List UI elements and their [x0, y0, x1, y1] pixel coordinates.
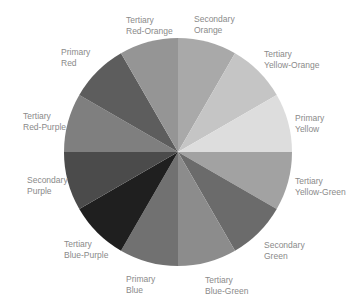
label-line-2: Blue — [126, 285, 155, 296]
label-line-1: Secondary — [194, 14, 235, 25]
label-tertiary-yellow-orange: TertiaryYellow-Orange — [264, 49, 319, 71]
label-tertiary-yellow-green: TertiaryYellow-Green — [295, 176, 346, 198]
label-primary-blue: PrimaryBlue — [126, 274, 155, 296]
label-line-2: Yellow — [295, 124, 324, 135]
label-line-2: Yellow-Orange — [264, 60, 319, 71]
label-tertiary-blue-purple: TertiaryBlue-Purple — [64, 239, 108, 261]
label-line-2: Red-Orange — [126, 26, 173, 37]
label-line-1: Tertiary — [205, 275, 248, 286]
label-primary-yellow: PrimaryYellow — [295, 113, 324, 135]
label-line-1: Primary — [126, 274, 155, 285]
label-tertiary-red-orange: TertiaryRed-Orange — [126, 15, 173, 37]
label-line-2: Orange — [194, 25, 235, 36]
label-line-2: Green — [264, 251, 305, 262]
label-line-1: Tertiary — [126, 15, 173, 26]
label-line-2: Red-Purple — [23, 122, 66, 133]
label-line-1: Tertiary — [264, 49, 319, 60]
label-line-2: Yellow-Green — [295, 187, 346, 198]
label-line-1: Secondary — [264, 240, 305, 251]
label-tertiary-red-purple: TertiaryRed-Purple — [23, 111, 66, 133]
label-secondary-orange: SecondaryOrange — [194, 14, 235, 36]
label-primary-red: PrimaryRed — [61, 47, 90, 69]
label-secondary-purple: SecondaryPurple — [27, 175, 68, 197]
label-line-1: Primary — [61, 47, 90, 58]
label-tertiary-blue-green: TertiaryBlue-Green — [205, 275, 248, 297]
label-line-1: Tertiary — [23, 111, 66, 122]
label-line-1: Tertiary — [295, 176, 346, 187]
label-line-1: Tertiary — [64, 239, 108, 250]
label-line-1: Primary — [295, 113, 324, 124]
label-line-2: Blue-Green — [205, 286, 248, 297]
label-line-1: Secondary — [27, 175, 68, 186]
label-line-2: Purple — [27, 186, 68, 197]
label-line-2: Blue-Purple — [64, 250, 108, 261]
label-secondary-green: SecondaryGreen — [264, 240, 305, 262]
label-line-2: Red — [61, 58, 90, 69]
